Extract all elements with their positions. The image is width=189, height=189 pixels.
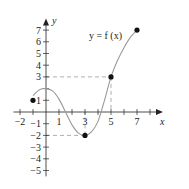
function-label: y = f (x) — [89, 30, 122, 42]
x-tick-label: −2 — [15, 116, 26, 127]
y-tick-label: −3 — [30, 142, 41, 153]
data-point — [134, 28, 139, 33]
x-tick-label: 7 — [135, 116, 140, 127]
x-tick-label: 5 — [109, 116, 114, 127]
y-tick-label: 3 — [36, 71, 41, 82]
y-tick-label: 4 — [36, 60, 41, 71]
y-tick-label: −5 — [30, 165, 41, 176]
x-tick-label: 3 — [83, 116, 88, 127]
y-tick-label: −4 — [30, 153, 41, 164]
axes: −21357 765431−1−2−3−4−5 — [14, 18, 164, 176]
x-axis-arrow-icon — [156, 109, 163, 115]
function-graph: −21357 765431−1−2−3−4−5 x y y = f (x) — [0, 0, 189, 189]
y-tick-label: 6 — [36, 36, 41, 47]
y-tick-label: −1 — [30, 118, 41, 129]
y-tick-label: 1 — [36, 95, 41, 106]
x-axis-label: x — [159, 116, 165, 127]
data-point — [108, 74, 113, 79]
data-point — [30, 98, 35, 103]
y-tick-label: 5 — [36, 48, 41, 59]
y-tick-label: −2 — [30, 130, 41, 141]
y-axis-label: y — [51, 15, 57, 26]
data-point — [82, 133, 87, 138]
y-axis-arrow-icon — [43, 18, 49, 25]
x-tick-label: 1 — [57, 116, 62, 127]
y-tick-label: 7 — [36, 25, 41, 36]
